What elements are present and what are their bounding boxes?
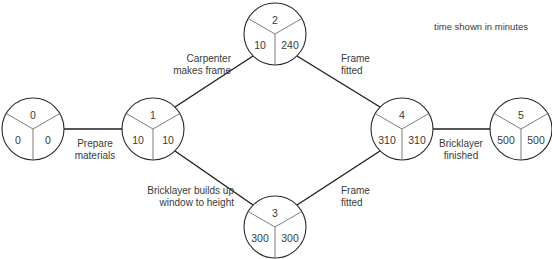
label-line: window to height	[110, 197, 234, 209]
node-number: 5	[518, 109, 524, 121]
node-4: 4 310 310	[371, 98, 433, 160]
time-unit-note: time shown in minutes	[434, 21, 528, 32]
activity-label-frame-fitted-lower: Frame fitted	[341, 185, 381, 209]
node-number: 3	[272, 207, 278, 219]
label-line: Carpenter	[155, 53, 231, 65]
label-line: Frame	[341, 53, 381, 65]
node-latest-time: 10	[162, 134, 174, 146]
node-0: 0 0 0	[2, 98, 64, 160]
activity-label-bricklayer-finished: Bricklayer finished	[433, 138, 489, 162]
node-number: 0	[30, 109, 36, 121]
activity-label-frame-fitted-upper: Frame fitted	[341, 53, 381, 77]
node-latest-time: 0	[45, 134, 51, 146]
node-3: 3 300 300	[244, 196, 306, 258]
node-earliest-time: 300	[251, 232, 269, 244]
activity-label-prepare-materials: Prepare materials	[70, 138, 120, 162]
node-latest-time: 300	[281, 232, 299, 244]
activity-label-carpenter-makes-frame: Carpenter makes frame	[155, 53, 231, 77]
network-diagram: 0 0 0 1 10 10 2 10 240 3 300 300	[0, 0, 552, 259]
node-earliest-time: 500	[497, 134, 515, 146]
node-5: 5 500 500	[490, 98, 552, 160]
activity-label-bricklayer-builds-up: Bricklayer builds up window to height	[110, 185, 234, 209]
node-number: 2	[272, 14, 278, 26]
node-number: 4	[399, 109, 405, 121]
label-line: finished	[433, 150, 489, 162]
label-line: makes frame	[155, 65, 231, 77]
node-2: 2 10 240	[244, 3, 306, 65]
node-earliest-time: 10	[132, 134, 144, 146]
label-line: Prepare	[70, 138, 120, 150]
node-earliest-time: 0	[15, 134, 21, 146]
node-earliest-time: 10	[254, 39, 266, 51]
node-number: 1	[150, 109, 156, 121]
label-line: Bricklayer builds up	[110, 185, 234, 197]
node-latest-time: 310	[408, 134, 426, 146]
label-line: Bricklayer	[433, 138, 489, 150]
node-earliest-time: 310	[378, 134, 396, 146]
label-line: materials	[70, 150, 120, 162]
node-latest-time: 240	[281, 39, 299, 51]
label-line: fitted	[341, 65, 381, 77]
node-latest-time: 500	[527, 134, 545, 146]
label-line: fitted	[341, 197, 381, 209]
node-1: 1 10 10	[122, 98, 184, 160]
label-line: Frame	[341, 185, 381, 197]
